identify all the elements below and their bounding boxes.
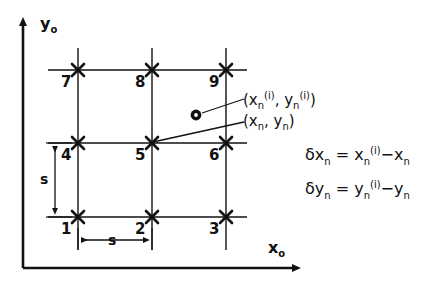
node-label-9: 9 <box>209 75 219 90</box>
displaced-point-marker <box>191 110 202 121</box>
node-label-1: 1 <box>61 222 71 237</box>
vertical-spacing-label: s <box>40 172 48 186</box>
equation-delta-y: δyn = yn(i)−yn <box>305 180 410 201</box>
node-label-3: 3 <box>209 222 219 237</box>
finite-element-grid-diagram: yo xo 1 2 3 4 5 6 7 8 9 s s (xn(i), yn(i… <box>0 0 437 287</box>
y-axis-label: yo <box>40 16 57 35</box>
node-label-8: 8 <box>135 75 145 90</box>
node-label-6: 6 <box>209 148 219 163</box>
reference-point-annotation: (xn, yn) <box>243 114 295 132</box>
displaced-point-annotation: (xn(i), yn(i)) <box>243 91 316 111</box>
leader-line-displaced <box>202 99 244 113</box>
node-label-7: 7 <box>61 75 71 90</box>
leader-lines <box>153 99 244 142</box>
grid-vertical-lines <box>78 48 226 250</box>
node-label-4: 4 <box>61 148 71 163</box>
node-label-2: 2 <box>135 222 145 237</box>
horizontal-spacing-label: s <box>108 233 116 247</box>
equation-delta-x: δxn = xn(i)−xn <box>305 146 410 167</box>
diagram-canvas <box>0 0 437 287</box>
x-axis-label: xo <box>268 240 285 259</box>
node-label-5: 5 <box>135 148 145 163</box>
